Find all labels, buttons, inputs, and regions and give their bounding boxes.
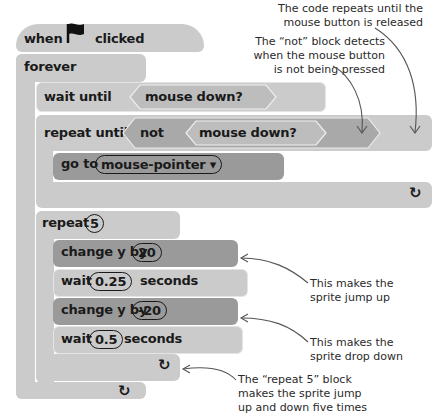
arrow-jump-up (241, 258, 308, 283)
arrow-repeat5 (183, 368, 236, 380)
arrow-drop-down (241, 318, 308, 342)
arrow-not-block (333, 66, 362, 132)
arrow-repeat-until (375, 28, 416, 132)
annotation-arrows (0, 0, 440, 415)
